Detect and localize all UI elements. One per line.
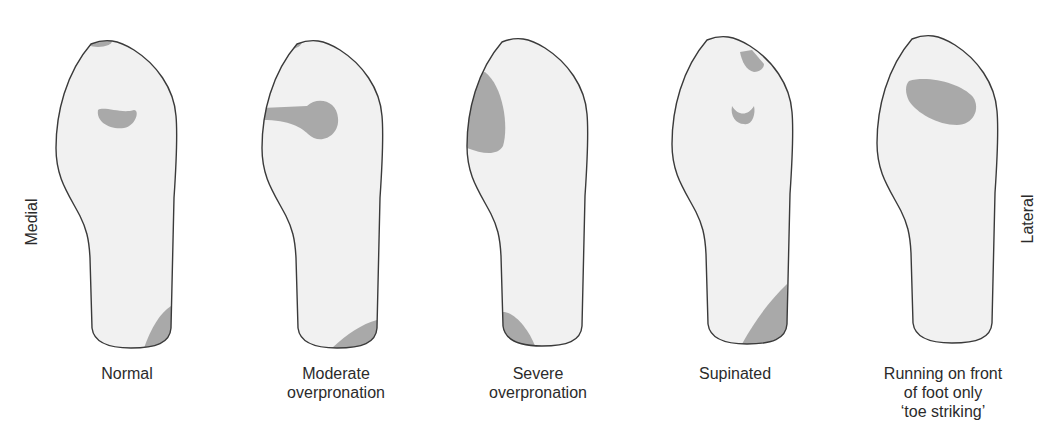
footprint-normal [52, 35, 177, 348]
footprint-supinated [672, 37, 793, 344]
panel-label-supinated: Supinated [675, 364, 795, 383]
footprint-moderate-overpronation [262, 33, 383, 348]
lateral-label: Lateral [1019, 195, 1037, 244]
medial-label: Medial [23, 198, 41, 245]
panel-label-severe: Severe overpronation [468, 364, 608, 402]
footprint-severe-overpronation [467, 39, 588, 346]
panel-label-toe-striking: Running on front of foot only ‘toe strik… [868, 364, 1018, 421]
footprint-toe-striking [877, 36, 998, 343]
panel-label-normal: Normal [72, 364, 182, 383]
panel-label-moderate: Moderate overpronation [266, 364, 406, 402]
